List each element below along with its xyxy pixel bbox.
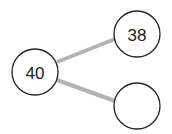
node-root: 40: [12, 49, 58, 95]
node-child-upper: 38: [114, 11, 160, 57]
node-child-lower: [114, 83, 160, 129]
tree-diagram: 40 38: [0, 0, 172, 134]
node-child-upper-label: 38: [128, 26, 147, 45]
node-root-label: 40: [26, 64, 45, 83]
edge-root-to-upper: [57, 39, 115, 62]
edge-root-to-lower: [57, 80, 115, 101]
